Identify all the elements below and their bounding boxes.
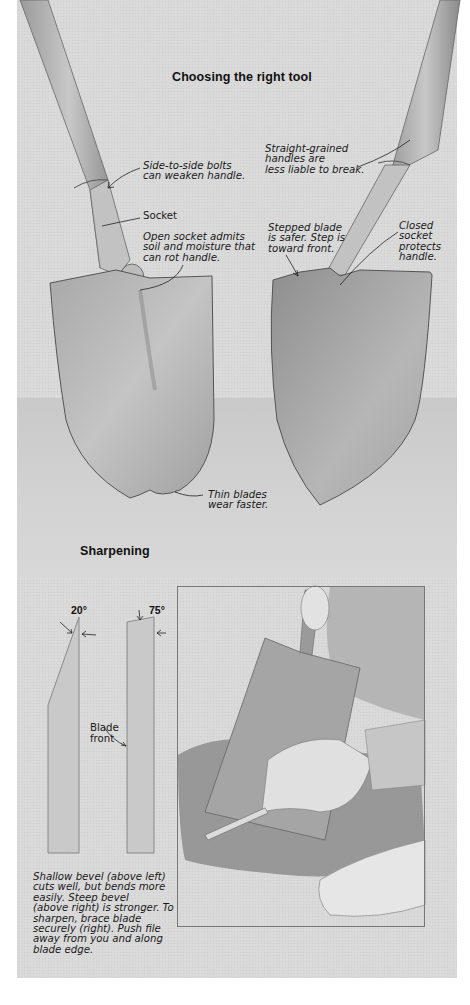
left-shovel-socket [90, 180, 130, 275]
angle-label-shallow: 20° [71, 604, 87, 616]
steep-bevel-blade [127, 617, 154, 853]
bevel-diagram-shallow [48, 617, 96, 853]
angle-label-steep: 75° [149, 604, 165, 616]
shallow-bevel-blade [48, 617, 79, 853]
left-shovel-blade [50, 270, 214, 498]
right-shovel-blade [271, 268, 432, 505]
annotation-open-socket: Open socket admits soil and moisture tha… [143, 232, 255, 263]
sharpening-caption: Shallow bevel (above left) cuts well, bu… [33, 872, 174, 955]
label-blade-front: Blade front [90, 723, 119, 744]
right-shovel-handle [390, 0, 460, 175]
annotation-side-bolts: Side-to-side bolts can weaken handle. [143, 161, 245, 182]
annotation-thin-blades: Thin blades wear faster. [208, 490, 268, 511]
right-shovel-socket [325, 165, 410, 275]
annotation-straight-grained: Straight-grained handles are less liable… [265, 144, 364, 175]
sharpening-illustration-frame [177, 586, 425, 927]
section-title-sharpening: Sharpening [80, 544, 150, 558]
annotation-stepped-blade: Stepped blade is safer. Step is toward f… [268, 223, 345, 254]
annotation-socket: Socket [143, 211, 177, 222]
annotation-closed-socket: Closed socket protects handle. [399, 221, 441, 263]
section-title-choosing: Choosing the right tool [172, 70, 312, 84]
